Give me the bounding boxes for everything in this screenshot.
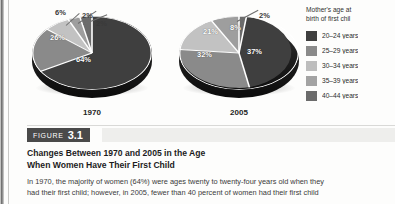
caption-divider <box>27 125 395 126</box>
legend-items: 20–24 years 25–29 years 30–34 years 35–3… <box>306 28 395 103</box>
pie-top-face-1970 <box>32 16 152 90</box>
figure-badge: Figure 3.1 <box>27 128 90 142</box>
pie-label-2005-8: 8% <box>230 23 241 32</box>
figure-body-text: In 1970, the majority of women (64%) wer… <box>27 176 393 198</box>
legend-swatch-35-39 <box>306 76 317 86</box>
legend-label-40-44: 40–44 years <box>322 92 358 99</box>
legend-swatch-30-34 <box>306 61 317 71</box>
legend-swatch-40-44 <box>306 91 317 101</box>
legend-item-25-29: 25–29 years <box>306 43 395 58</box>
chart-legend: Mother's age at birth of first chil 20–2… <box>306 6 395 103</box>
figure-body-line2: had their first child; however, in 2005,… <box>27 187 393 198</box>
figure-title-line1: Changes Between 1970 and 2005 in the Age <box>27 148 205 158</box>
pie-label-2005-32: 32% <box>197 50 212 59</box>
page-gutter-line <box>8 0 9 204</box>
pie-label-1970-2-b: 2% <box>96 19 107 28</box>
legend-swatch-20-24 <box>306 31 317 41</box>
legend-label-25-29: 25–29 years <box>322 47 358 54</box>
legend-item-30-34: 30–34 years <box>306 58 395 73</box>
legend-swatch-25-29 <box>306 46 317 56</box>
figure-body-line1: In 1970, the majority of women (64%) wer… <box>27 176 393 187</box>
pie-label-2005-37: 37% <box>247 47 262 56</box>
page-gutter-shadow <box>0 0 4 204</box>
figure-page: 64% 26% 6% 2% 2% 1970 <box>0 0 395 204</box>
pie-label-1970-64: 64% <box>76 55 91 64</box>
legend-label-30-34: 30–34 years <box>322 62 358 69</box>
figure-badge-number: 3.1 <box>68 130 83 141</box>
figure-badge-tail <box>102 128 395 142</box>
figure-badge-word: Figure <box>33 132 64 139</box>
figure-title-line2: When Women Have Their First Child <box>27 160 175 170</box>
legend-title-line2: birth of first chil <box>306 15 350 22</box>
legend-item-35-39: 35–39 years <box>306 73 395 88</box>
pie-label-1970-6: 6% <box>55 8 66 17</box>
pie-label-1970-2-a: 2% <box>82 11 93 20</box>
pie-chart-1970: 64% 26% 6% 2% 2% 1970 <box>28 2 178 124</box>
pie-year-label-2005: 2005 <box>175 108 303 117</box>
pie-graphic-1970: 64% 26% 6% 2% 2% <box>28 2 156 98</box>
pie-label-2005-2: 2% <box>259 11 270 20</box>
pie-label-1970-26: 26% <box>50 33 65 42</box>
legend-title: Mother's age at birth of first chil <box>306 6 392 23</box>
figure-title: Changes Between 1970 and 2005 in the Age… <box>27 148 367 171</box>
pie-year-label-1970: 1970 <box>28 108 156 117</box>
pie-chart-2005: 37% 32% 21% 8% 2% 2005 <box>175 2 325 124</box>
legend-item-40-44: 40–44 years <box>306 88 395 103</box>
legend-label-35-39: 35–39 years <box>322 77 358 84</box>
pie-label-2005-21: 21% <box>203 27 218 36</box>
legend-item-20-24: 20–24 years <box>306 28 395 43</box>
legend-label-20-24: 20–24 years <box>322 32 358 39</box>
legend-title-line1: Mother's age at <box>306 6 351 13</box>
pie-graphic-2005: 37% 32% 21% 8% 2% <box>175 2 303 98</box>
